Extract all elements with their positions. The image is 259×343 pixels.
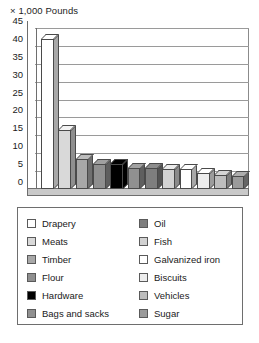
bar-front-face (180, 169, 193, 189)
bar (128, 168, 141, 189)
legend-item[interactable]: Fish (139, 232, 238, 250)
bar-front-face (197, 173, 210, 189)
legend-box: DraperyOilMeatsFishTimberGalvanized iron… (17, 207, 243, 325)
legend-swatch (27, 237, 36, 246)
legend-item[interactable]: Flour (27, 268, 139, 286)
legend-item[interactable]: Galvanized iron (139, 250, 238, 268)
legend-item[interactable]: Vehicles (139, 286, 238, 304)
legend-label: Oil (154, 218, 166, 229)
bar (180, 169, 193, 189)
bar-side-face (123, 159, 128, 189)
bar-series (35, 28, 249, 189)
bar-front-face (76, 159, 89, 189)
legend-item[interactable]: Biscuits (139, 268, 238, 286)
legend-swatch (27, 219, 36, 228)
bar-side-face (106, 159, 111, 189)
plot-area (27, 21, 249, 196)
legend-label: Timber (42, 254, 71, 265)
legend-swatch (139, 273, 148, 282)
legend-swatch (27, 291, 36, 300)
bar (197, 173, 210, 189)
legend-label: Meats (42, 236, 68, 247)
bar-side-face (88, 154, 93, 189)
legend-item[interactable]: Bags and sacks (27, 304, 139, 322)
bar-front-face (232, 176, 245, 189)
legend-swatch (27, 309, 36, 318)
bar (214, 175, 227, 189)
y-axis-tick-label: 30 (12, 70, 23, 80)
bar-front-face (128, 168, 141, 189)
legend-swatch (139, 309, 148, 318)
bar (58, 130, 71, 189)
legend-label: Flour (42, 272, 64, 283)
y-axis-tick-label: 40 (12, 34, 23, 44)
legend-item[interactable]: Oil (139, 214, 238, 232)
bar (232, 176, 245, 189)
y-axis-tick-label: 10 (12, 141, 23, 151)
bar (76, 159, 89, 189)
y-axis-labels: 454035302520151050 (0, 21, 25, 196)
y-axis-tick-label: 25 (12, 88, 23, 98)
y-axis-tick-label: 35 (12, 52, 23, 62)
bar-front-face (58, 130, 71, 189)
y-axis-tick-label: 15 (12, 123, 23, 133)
legend-item[interactable]: Drapery (27, 214, 139, 232)
y-axis-tick-label: 0 (18, 177, 23, 187)
legend-label: Sugar (154, 308, 179, 319)
legend-label: Fish (154, 236, 172, 247)
y-axis-tick-label: 20 (12, 105, 23, 115)
bar (93, 164, 106, 189)
y-axis-tick-label: 5 (18, 159, 23, 169)
y-axis-tick-label: 45 (12, 16, 23, 26)
bar-front-face (214, 175, 227, 189)
legend-swatch (139, 291, 148, 300)
legend-swatch (139, 237, 148, 246)
legend-item[interactable]: Meats (27, 232, 139, 250)
bar (162, 169, 175, 189)
legend-item[interactable]: Sugar (139, 304, 238, 322)
legend-item[interactable]: Timber (27, 250, 139, 268)
bar-chart-figure: × 1,000 Pounds 454035302520151050 Draper… (0, 0, 259, 343)
legend-label: Bags and sacks (42, 308, 109, 319)
legend-label: Vehicles (154, 290, 189, 301)
legend-swatch (27, 273, 36, 282)
legend-grid: DraperyOilMeatsFishTimberGalvanized iron… (27, 214, 238, 320)
legend-label: Drapery (42, 218, 76, 229)
figure-caption (8, 334, 251, 343)
plot-floor (27, 188, 249, 196)
legend-swatch (139, 255, 148, 264)
legend-item[interactable]: Hardware (27, 286, 139, 304)
legend-label: Biscuits (154, 272, 187, 283)
legend-swatch (27, 255, 36, 264)
bar (145, 168, 158, 189)
legend-label: Hardware (42, 290, 83, 301)
bar-side-face (71, 125, 76, 189)
bar-front-face (145, 168, 158, 189)
bar-side-face (54, 34, 59, 189)
bar-front-face (93, 164, 106, 189)
legend-label: Galvanized iron (154, 254, 220, 265)
bar-front-face (110, 164, 123, 189)
bar-front-face (41, 39, 54, 189)
legend-swatch (139, 219, 148, 228)
bar (41, 39, 54, 189)
bar (110, 164, 123, 189)
bar-front-face (162, 169, 175, 189)
